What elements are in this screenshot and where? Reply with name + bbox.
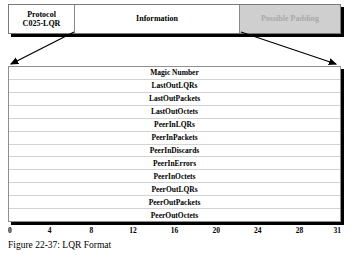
field-row: PeerInLQRs <box>9 119 340 132</box>
field-label: PeerOutLQRs <box>151 185 197 194</box>
field-label: PeerInDiscards <box>150 146 200 155</box>
field-row: PeerInDiscards <box>9 145 340 158</box>
bit-tick-label: 31 <box>334 226 342 235</box>
field-row: PeerOutPackets <box>9 196 340 209</box>
field-label: LastOutOctets <box>151 107 198 116</box>
field-label: PeerInOctets <box>153 172 195 181</box>
field-row: LastOutLQRs <box>9 80 340 93</box>
expansion-connectors <box>0 30 353 68</box>
packet-field-information-label: Information <box>136 14 178 23</box>
field-row: LastOutPackets <box>9 93 340 106</box>
field-label: PeerInErrors <box>153 159 196 168</box>
field-label: PeerOutPackets <box>149 198 201 207</box>
figure-caption: Figure 22-37: LQR Format <box>8 240 111 250</box>
field-row: PeerInErrors <box>9 157 340 170</box>
bit-tick-label: 24 <box>254 226 262 235</box>
packet-field-possible-padding: Possible Padding <box>240 5 340 33</box>
expansion-line-left <box>11 32 74 64</box>
packet-field-possible-padding-label: Possible Padding <box>261 14 319 23</box>
bit-tick-label: 20 <box>212 226 220 235</box>
packet-field-protocol: ProtocolC025-LQR <box>9 5 75 33</box>
field-row: Magic Number <box>9 67 340 80</box>
field-label: PeerInPackets <box>151 133 197 142</box>
packet-field-protocol-label: ProtocolC025-LQR <box>23 10 61 28</box>
field-label: PeerInLQRs <box>154 120 195 129</box>
lqr-field-table: Magic Number LastOutLQRs LastOutPackets … <box>8 66 341 222</box>
field-row: LastOutOctets <box>9 106 340 119</box>
field-label: Magic Number <box>150 68 199 77</box>
field-label: PeerOutOctets <box>151 211 198 220</box>
field-label: LastOutPackets <box>149 94 200 103</box>
bit-tick-label: 0 <box>8 226 12 235</box>
field-row: PeerOutOctets <box>9 209 340 221</box>
bit-tick-label: 12 <box>129 226 137 235</box>
expansion-line-right <box>241 32 336 64</box>
bit-tick-label: 16 <box>171 226 179 235</box>
field-row: PeerOutLQRs <box>9 183 340 196</box>
field-row: PeerInOctets <box>9 170 340 183</box>
bit-tick-label: 28 <box>296 226 304 235</box>
packet-field-information: Information <box>75 5 240 33</box>
bit-tick-label: 8 <box>89 226 93 235</box>
field-row: PeerInPackets <box>9 132 340 145</box>
field-label: LastOutLQRs <box>152 81 198 90</box>
bit-position-ruler: 048121620242831 <box>8 224 341 238</box>
bit-tick-label: 4 <box>48 226 52 235</box>
